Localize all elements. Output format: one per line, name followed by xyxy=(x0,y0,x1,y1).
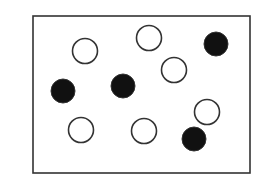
open-circle xyxy=(132,119,157,144)
filled-circle xyxy=(204,32,228,56)
open-circle xyxy=(195,100,220,125)
open-circle xyxy=(162,58,187,83)
open-circle xyxy=(137,26,162,51)
open-circle xyxy=(73,39,98,64)
filled-circle xyxy=(51,79,75,103)
particle-diagram xyxy=(0,0,265,189)
open-circle xyxy=(69,118,94,143)
filled-circle xyxy=(111,74,135,98)
filled-circle xyxy=(182,127,206,151)
